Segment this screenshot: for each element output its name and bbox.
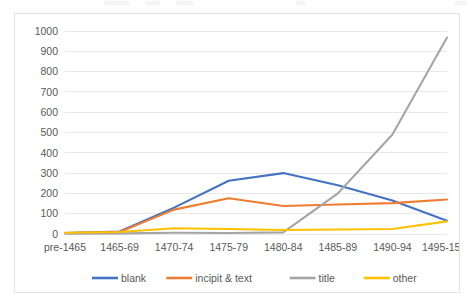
x-axis-tick-label: 1485-89	[319, 241, 358, 253]
x-axis-tick-label: pre-1465	[44, 241, 86, 253]
clipped-toolbar-artifacts	[0, 0, 475, 11]
legend-label-title[interactable]: title	[319, 272, 336, 284]
y-axis-tick-label: 700	[40, 86, 58, 98]
legend-label-other[interactable]: other	[393, 272, 417, 284]
y-axis-tick-label: 300	[40, 167, 58, 179]
x-axis-tick-label: 1475-79	[209, 241, 248, 253]
x-axis-tick-label: 1465-69	[100, 241, 139, 253]
y-axis-tick-label: 0	[52, 228, 58, 240]
y-axis-tick-label: 100	[40, 207, 58, 219]
chart-object-frame[interactable]: 01002003004005006007008009001000pre-1465…	[14, 13, 460, 293]
y-axis-tick-label: 200	[40, 187, 58, 199]
y-axis-tick-label: 500	[40, 126, 58, 138]
y-axis-tick-label: 400	[40, 147, 58, 159]
y-axis-tick-label: 900	[40, 45, 58, 57]
x-axis-tick-label: 1470-74	[155, 241, 194, 253]
x-axis-tick-label: 1490-94	[373, 241, 412, 253]
y-axis-tick-label: 600	[40, 106, 58, 118]
legend-label-incipit-text[interactable]: incipit & text	[195, 272, 252, 284]
x-axis-tick-label: 1480-84	[264, 241, 303, 253]
y-axis-tick-label: 1000	[35, 25, 59, 37]
x-axis-tick-label: 1495-1500	[422, 241, 459, 253]
y-axis-tick-label: 800	[40, 65, 58, 77]
screenshot-root: 01002003004005006007008009001000pre-1465…	[0, 0, 475, 306]
legend-label-blank[interactable]: blank	[121, 272, 147, 284]
line-chart[interactable]: 01002003004005006007008009001000pre-1465…	[15, 14, 459, 292]
